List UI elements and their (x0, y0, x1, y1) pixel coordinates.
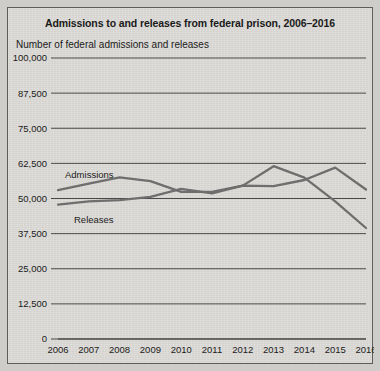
x-tick-label: 2013 (263, 344, 284, 355)
x-tick-label: 2009 (140, 344, 161, 355)
x-tick-label: 2011 (202, 344, 222, 355)
x-tick-label: 2012 (232, 344, 253, 355)
y-tick-label: 100,000 (13, 52, 47, 63)
y-tick-label: 62,500 (18, 158, 47, 169)
chart-figure: Admissions to and releases from federal … (7, 7, 373, 364)
y-tick-label: 50,000 (18, 193, 47, 204)
y-tick-label: 87,500 (18, 88, 47, 99)
y-tick-label: 0 (42, 333, 47, 344)
y-tick-label: 12,500 (18, 298, 47, 309)
x-tick-label: 2015 (325, 344, 346, 355)
x-tick-label: 2010 (171, 344, 192, 355)
gridlines-group (51, 58, 366, 339)
y-tick-label: 37,500 (18, 228, 47, 239)
x-axis-tick-labels: 2006200720082009201020112012201320142015… (47, 344, 374, 355)
x-tick-label: 2006 (47, 344, 68, 355)
y-tick-label: 25,000 (18, 263, 47, 274)
line-chart-plot: 012,50025,00037,50050,00062,50075,00087,… (8, 8, 374, 365)
y-axis-tick-labels: 012,50025,00037,50050,00062,50075,00087,… (13, 52, 47, 344)
y-tick-label: 75,000 (18, 123, 47, 134)
x-tick-label: 2008 (109, 344, 130, 355)
x-tick-label: 2014 (294, 344, 315, 355)
series-annotation-releases: Releases (74, 214, 114, 225)
x-tick-label: 2007 (78, 344, 99, 355)
x-tick-label: 2016 (355, 344, 374, 355)
series-annotation-admissions: Admissions (65, 169, 114, 180)
series-annotations-group: AdmissionsReleases (65, 169, 114, 225)
